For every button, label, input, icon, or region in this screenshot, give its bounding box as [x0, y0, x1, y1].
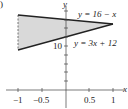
annotation-3x-plus-12: y = 3x + 12 — [73, 38, 117, 48]
y-tick-label-10: 10 — [53, 41, 63, 51]
y-axis-label: y — [62, 0, 67, 9]
x-tick-label-neg1: −1 — [13, 95, 23, 105]
panel-label: ) — [0, 0, 3, 9]
chart: ) y x 10 y = 16 − x y = 3x + 12 −1 −0.5 … — [0, 0, 128, 109]
x-tick-label-05: 0.5 — [84, 95, 96, 105]
annotation-16-minus-x: y = 16 − x — [77, 9, 116, 19]
x-tick-label-1: 1 — [111, 95, 116, 105]
x-tick-label-neg05: −0.5 — [33, 95, 50, 105]
x-axis-label: x — [122, 84, 127, 94]
